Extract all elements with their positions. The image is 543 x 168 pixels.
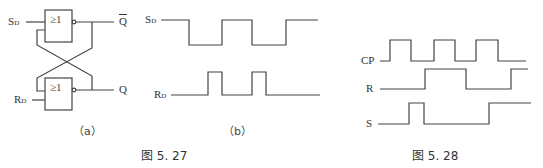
waveform-s	[378, 103, 531, 124]
inversion-bubble-top	[72, 20, 76, 24]
label-rd-waveform: RD	[154, 89, 166, 102]
label-s: S	[366, 118, 372, 129]
waveform-cp	[380, 40, 526, 61]
caption-a: （a）	[73, 122, 102, 138]
label-q-bar-output: Q	[119, 16, 127, 27]
label-sd-waveform: SD	[145, 14, 156, 27]
label-sd-input: SD	[8, 16, 19, 29]
inversion-bubble-bottom	[72, 88, 76, 92]
diagram-canvas	[0, 0, 543, 168]
waveform-rd	[171, 72, 320, 95]
label-r: R	[366, 83, 373, 94]
waveform-r	[380, 69, 528, 89]
waveform-sd	[161, 20, 318, 45]
label-cp: CP	[361, 55, 374, 66]
label-q-output: Q	[119, 84, 127, 95]
gate-top-symbol: ≥1	[50, 13, 62, 25]
label-rd-input: RD	[14, 94, 26, 107]
caption-b: （b）	[223, 122, 252, 138]
figure-528-caption: 图 5. 28	[412, 146, 458, 163]
gate-bottom-symbol: ≥1	[50, 81, 62, 93]
figure-527-caption: 图 5. 27	[141, 146, 187, 163]
